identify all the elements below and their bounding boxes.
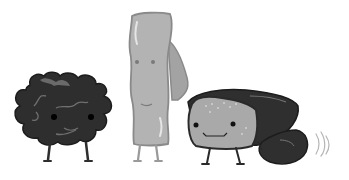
illustration-canvas [0, 0, 349, 180]
right-eye [88, 114, 94, 120]
dark-leafy-blob-character [15, 72, 111, 161]
hooded-round-character [188, 90, 329, 165]
tall-gray-strip-character [129, 13, 187, 161]
illustration-scene [0, 0, 349, 180]
left-eye [51, 114, 57, 120]
